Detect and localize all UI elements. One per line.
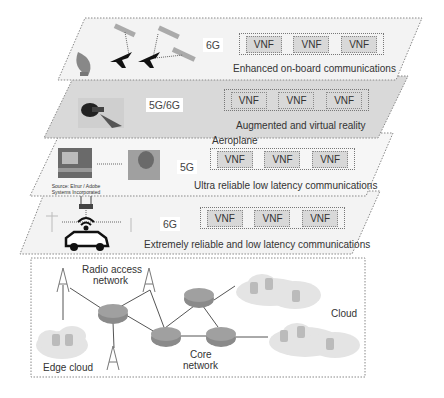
- surgery-robot-image: [58, 148, 92, 178]
- vnf-block: VNF: [231, 92, 267, 109]
- surgeon-image: [128, 150, 160, 180]
- vnf-block: VNF: [246, 36, 282, 53]
- vnf-block: VNF: [264, 151, 300, 168]
- vnf-block: VNF: [302, 210, 338, 227]
- vnf-block: VNF: [312, 151, 348, 168]
- diagram-canvas: [0, 0, 444, 398]
- image-credit: Source: Elnur / Adobe Systems Incorporat…: [50, 183, 102, 195]
- vnf-group: VNF VNF VNF: [200, 207, 345, 229]
- radio-access-label: Radio access: [82, 264, 142, 275]
- vnf-block: VNF: [326, 92, 362, 109]
- generation-label: 6G: [203, 38, 223, 52]
- vnf-group: VNF VNF VNF: [210, 148, 355, 170]
- vr-headset-image: [78, 98, 124, 128]
- core-network-label: Core: [190, 349, 212, 360]
- radio-access-label-line2: network: [93, 275, 128, 286]
- vnf-block: VNF: [341, 36, 377, 53]
- generation-label: 6G: [160, 217, 180, 231]
- vnf-group: VNF VNF VNF: [224, 89, 369, 111]
- vnf-block: VNF: [217, 151, 253, 168]
- vnf-group: VNF VNF VNF: [239, 33, 384, 55]
- generation-label: 5G: [177, 160, 197, 174]
- vnf-block: VNF: [278, 92, 314, 109]
- edge-cloud-label: Edge cloud: [43, 362, 93, 373]
- use-case-label: Ultra reliable low latency communication…: [194, 180, 377, 191]
- generation-label: 5G/6G: [146, 98, 183, 112]
- vnf-block: VNF: [254, 210, 290, 227]
- use-case-label: Enhanced on-board communications: [233, 63, 396, 74]
- aeroplane-label: Aeroplane: [212, 135, 258, 146]
- core-network-label-line2: network: [183, 360, 218, 371]
- use-case-label: Extremely reliable and low latency commu…: [144, 239, 370, 250]
- use-case-label: Augmented and virtual reality: [236, 120, 366, 131]
- vnf-block: VNF: [293, 36, 329, 53]
- vnf-block: VNF: [207, 210, 243, 227]
- cloud-label: Cloud: [331, 308, 357, 319]
